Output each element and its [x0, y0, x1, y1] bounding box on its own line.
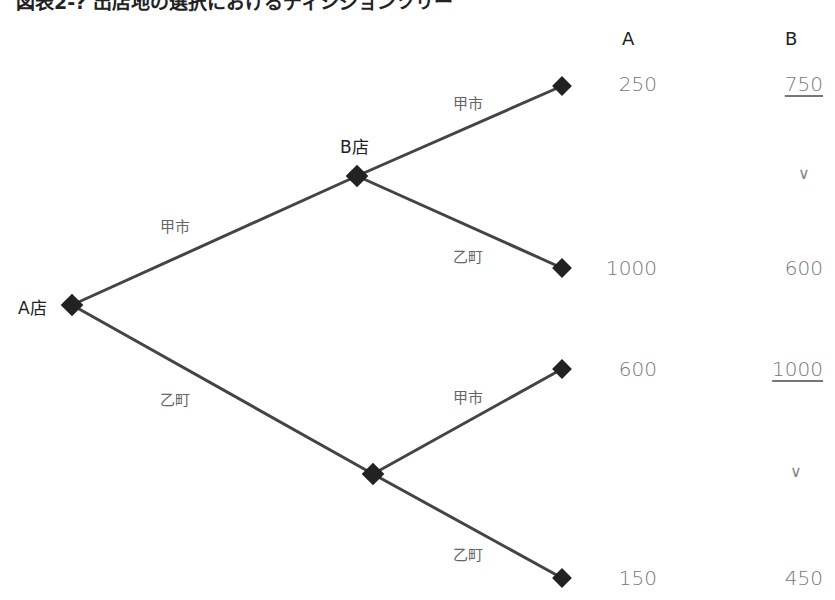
outcome-b: 750: [743, 72, 823, 96]
edge-lower-up: [373, 369, 562, 474]
leaf-4: [552, 568, 572, 588]
comparison-symbol: ∨: [798, 164, 810, 183]
outcome-a: 150: [577, 566, 657, 590]
decision-tree: [0, 0, 835, 600]
branch-label: 甲市: [453, 386, 483, 407]
leaf-1: [552, 76, 572, 96]
node-upper: [346, 165, 369, 188]
node-root: [61, 294, 84, 317]
edge-root-lower: [72, 305, 373, 474]
column-header-a: A: [622, 28, 634, 49]
node-label-upper: B店: [340, 133, 369, 158]
column-header-b: B: [785, 28, 797, 49]
outcome-a: 600: [577, 357, 657, 381]
outcome-b: 450: [743, 566, 823, 590]
branch-label: 甲市: [160, 215, 190, 236]
branch-label: 乙町: [453, 245, 483, 266]
branch-label: 乙町: [453, 543, 483, 564]
comparison-symbol: ∨: [790, 462, 802, 481]
edge-root-upper: [72, 176, 357, 305]
leaf-2: [552, 258, 572, 278]
node-lower: [362, 463, 385, 486]
leaf-3: [552, 359, 572, 379]
outcome-b: 600: [743, 256, 823, 280]
node-label-root: A店: [18, 294, 47, 319]
outcome-a: 1000: [577, 256, 657, 280]
outcome-a: 250: [577, 72, 657, 96]
outcome-b: 1000: [743, 357, 823, 381]
branch-label: 甲市: [453, 92, 483, 113]
branch-label: 乙町: [160, 388, 190, 409]
